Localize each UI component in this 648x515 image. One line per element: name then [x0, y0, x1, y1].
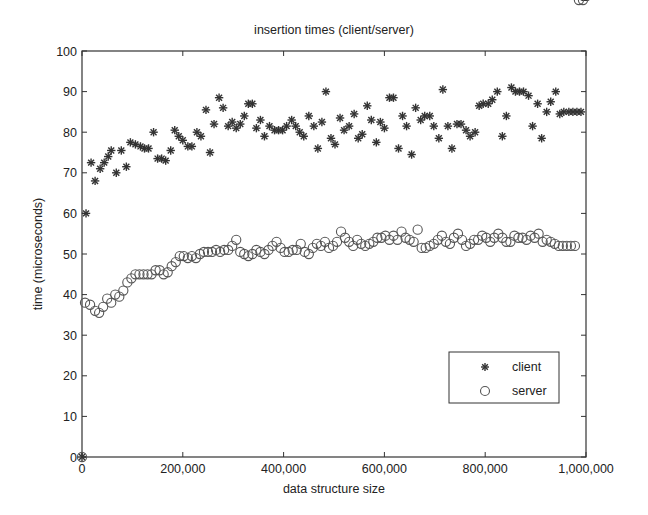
asterisk-marker: [305, 112, 313, 120]
asterisk-marker: [236, 120, 244, 128]
asterisk-marker: [407, 150, 415, 158]
y-tick-label: 40: [63, 288, 77, 302]
y-tick-label: 30: [63, 329, 77, 343]
asterisk-marker: [188, 142, 196, 150]
asterisk-marker: [282, 122, 290, 130]
asterisk-marker: [389, 93, 397, 101]
asterisk-marker: [161, 156, 169, 164]
asterisk-marker: [350, 110, 358, 118]
scatter-chart: insertion times (client/server) 0200,000…: [0, 0, 648, 515]
asterisk-marker: [345, 122, 353, 130]
y-tick-label: 50: [63, 248, 77, 262]
asterisk-marker: [380, 124, 388, 132]
asterisk-marker: [228, 118, 236, 126]
asterisk-marker: [112, 169, 120, 177]
asterisk-marker: [444, 122, 452, 130]
x-tick-label: 0: [79, 462, 86, 476]
asterisk-marker: [471, 128, 479, 136]
asterisk-marker: [197, 132, 205, 140]
asterisk-marker: [358, 130, 366, 138]
asterisk-marker: [117, 146, 125, 154]
asterisk-marker: [82, 209, 90, 217]
asterisk-marker: [488, 96, 496, 104]
asterisk-marker: [533, 100, 541, 108]
asterisk-marker: [96, 165, 104, 173]
asterisk-marker: [493, 87, 501, 95]
asterisk-marker: [91, 177, 99, 185]
asterisk-marker: [363, 102, 371, 110]
circle-marker: [413, 225, 422, 234]
asterisk-marker: [552, 87, 560, 95]
asterisk-marker: [398, 112, 406, 120]
asterisk-marker: [144, 144, 152, 152]
asterisk-marker: [411, 104, 419, 112]
asterisk-marker: [322, 87, 330, 95]
y-tick-label: 90: [63, 85, 77, 99]
asterisk-marker: [256, 116, 264, 124]
asterisk-marker: [537, 134, 545, 142]
asterisk-marker: [100, 158, 108, 166]
asterisk-marker: [87, 158, 95, 166]
x-tick-label: 1,000,000: [558, 462, 614, 476]
asterisk-marker: [577, 108, 585, 116]
asterisk-marker: [219, 104, 227, 112]
y-tick-label: 0: [70, 451, 77, 465]
asterisk-marker: [171, 126, 179, 134]
asterisk-marker: [542, 108, 550, 116]
x-axis-label: data structure size: [283, 482, 385, 496]
legend-label-client: client: [512, 360, 542, 374]
asterisk-marker: [426, 112, 434, 120]
asterisk-marker: [331, 140, 339, 148]
asterisk-marker: [528, 122, 536, 130]
asterisk-marker: [502, 112, 510, 120]
asterisk-marker: [167, 146, 175, 154]
asterisk-marker: [287, 116, 295, 124]
asterisk-marker: [498, 132, 506, 140]
asterisk-marker: [310, 122, 318, 130]
y-tick-label: 10: [63, 410, 77, 424]
asterisk-marker: [402, 122, 410, 130]
asterisk-marker: [372, 138, 380, 146]
x-tick-label: 200,000: [160, 462, 205, 476]
asterisk-marker: [394, 144, 402, 152]
x-tick-label: 600,000: [362, 462, 407, 476]
y-tick-label: 80: [63, 126, 77, 140]
asterisk-marker: [336, 114, 344, 122]
asterisk-marker: [457, 120, 465, 128]
y-tick-label: 100: [56, 45, 77, 59]
asterisk-marker: [149, 128, 157, 136]
asterisk-marker: [252, 124, 260, 132]
asterisk-marker: [481, 363, 489, 371]
asterisk-marker: [260, 132, 268, 140]
x-axis: 0200,000400,000600,000800,0001,000,000: [79, 51, 614, 476]
asterisk-marker: [215, 93, 223, 101]
asterisk-marker: [524, 91, 532, 99]
asterisk-marker: [300, 132, 308, 140]
circle-marker: [85, 300, 94, 309]
asterisk-marker: [240, 112, 248, 120]
legend: client server: [449, 352, 559, 403]
y-axis-label: time (microseconds): [31, 198, 45, 311]
asterisk-marker: [376, 118, 384, 126]
asterisk-marker: [448, 144, 456, 152]
asterisk-marker: [318, 118, 326, 126]
y-tick-label: 70: [63, 166, 77, 180]
asterisk-marker: [179, 136, 187, 144]
asterisk-marker: [202, 106, 210, 114]
asterisk-marker: [122, 163, 130, 171]
chart-title: insertion times (client/server): [254, 23, 414, 37]
asterisk-marker: [327, 134, 335, 142]
legend-label-server: server: [512, 384, 547, 398]
asterisk-marker: [435, 134, 443, 142]
asterisk-marker: [206, 148, 214, 156]
asterisk-marker: [248, 100, 256, 108]
asterisk-marker: [210, 120, 218, 128]
x-tick-label: 400,000: [261, 462, 306, 476]
asterisk-marker: [430, 122, 438, 130]
asterisk-marker-icon: [481, 363, 489, 371]
asterisk-marker: [547, 98, 555, 106]
asterisk-marker: [439, 85, 447, 93]
asterisk-marker: [462, 126, 470, 134]
asterisk-marker: [367, 116, 375, 124]
x-tick-label: 800,000: [463, 462, 508, 476]
